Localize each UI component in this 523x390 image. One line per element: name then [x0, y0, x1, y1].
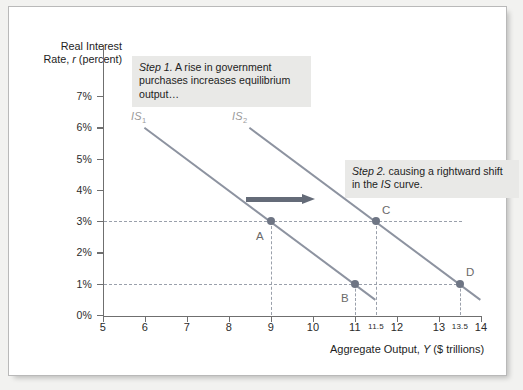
guide-line-x-11-5 [376, 221, 377, 315]
y-axis-title: Real Interest Rate, r (percent) [30, 40, 122, 65]
guide-line-3-percent [104, 221, 462, 222]
data-point-label-c: C [382, 204, 391, 216]
rightward-shift-arrow [246, 195, 318, 203]
y-axis-line [103, 45, 104, 317]
annotation-step-2-label: Step 2. [352, 165, 386, 177]
y-axis-title-line2-suffix: (percent) [76, 53, 122, 65]
y-tick-7 [97, 96, 103, 97]
guide-line-x-13-5 [460, 284, 461, 316]
y-tick-label-3: 3% [58, 215, 92, 227]
data-point-label-d: D [466, 266, 475, 278]
is1-curve [144, 127, 376, 301]
arrow-head [302, 194, 315, 204]
is1-label-subscript: 1 [142, 116, 146, 125]
y-tick-label-7: 7% [58, 90, 92, 102]
x-tick-label-10: 10 [298, 321, 328, 333]
x-axis-line [103, 316, 482, 317]
y-tick-5 [97, 159, 103, 160]
y-axis-title-line2-prefix: Rate, [43, 53, 72, 65]
x-tick-label-9: 9 [256, 321, 286, 333]
data-point-label-b: B [341, 292, 349, 304]
y-tick-4 [97, 190, 103, 191]
plot-area: Real Interest Rate, r (percent) Aggregat… [0, 0, 523, 390]
x-axis-title: Aggregate Output, Y ($ trillions) [330, 343, 484, 355]
y-tick-label-6: 6% [58, 121, 92, 133]
is2-curve [249, 127, 481, 301]
x-tick-label-11-5: 11.5 [361, 322, 391, 331]
is1-curve-label: IS1 [131, 110, 146, 125]
x-tick-label-7: 7 [172, 321, 202, 333]
y-tick-3 [97, 221, 103, 222]
figure-container: Real Interest Rate, r (percent) Aggregat… [0, 0, 523, 390]
arrow-shaft [246, 197, 304, 203]
is2-curve-label: IS2 [232, 110, 247, 125]
x-axis-title-suffix: ($ trillions) [430, 343, 484, 355]
annotation-step-2: Step 2. causing a rightward shift in the… [345, 160, 519, 198]
x-tick-label-6: 6 [130, 321, 160, 333]
is1-label-text: IS [131, 110, 142, 122]
annotation-step-2-italic-term: IS [381, 178, 391, 190]
y-tick-6 [97, 127, 103, 128]
y-tick-label-0: 0% [58, 309, 92, 321]
y-axis-title-line1: Real Interest [61, 40, 122, 52]
data-point-label-a: A [256, 230, 264, 242]
guide-line-1-percent [104, 284, 462, 285]
y-tick-label-1: 1% [58, 278, 92, 290]
guide-line-x-11 [355, 284, 356, 316]
x-tick-label-13-5: 13.5 [445, 322, 475, 331]
is2-label-text: IS [232, 110, 243, 122]
x-tick-label-5: 5 [88, 321, 118, 333]
guide-line-x-9 [271, 221, 272, 315]
is2-label-subscript: 2 [243, 116, 247, 125]
y-tick-label-2: 2% [58, 246, 92, 258]
annotation-step-1-label: Step 1. [139, 61, 173, 73]
y-tick-1 [97, 284, 103, 285]
y-tick-label-5: 5% [58, 153, 92, 165]
annotation-step-1: Step 1. A rise in government purchases i… [132, 56, 311, 107]
y-tick-2 [97, 252, 103, 253]
x-axis-title-prefix: Aggregate Output, [330, 343, 423, 355]
annotation-step-2-text-after: curve. [391, 178, 423, 190]
x-tick-label-8: 8 [214, 321, 244, 333]
y-tick-label-4: 4% [58, 184, 92, 196]
